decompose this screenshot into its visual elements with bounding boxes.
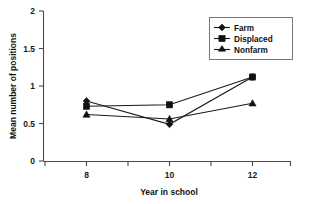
x-axis-title: Year in school xyxy=(140,187,198,197)
y-tick-label-1.5: 1.5 xyxy=(23,44,35,54)
data-point-displaced-8 xyxy=(83,103,89,109)
chart-container: 2 1.5 1 0.5 0 Mean number of positions 8… xyxy=(0,0,312,204)
legend-label-nonfarm: Nonfarm xyxy=(234,46,268,55)
line-chart: 2 1.5 1 0.5 0 Mean number of positions 8… xyxy=(0,0,312,204)
data-point-nonfarm-12 xyxy=(249,100,256,106)
x-tick-label-8: 8 xyxy=(84,170,89,180)
data-point-nonfarm-8 xyxy=(83,111,90,117)
data-point-displaced-10 xyxy=(166,102,172,108)
y-axis-title: Mean number of positions xyxy=(8,33,18,139)
y-tick-label-0: 0 xyxy=(30,156,35,166)
legend-marker-displaced-square xyxy=(219,35,225,41)
data-point-displaced-12 xyxy=(249,74,255,80)
y-tick-label-0.5: 0.5 xyxy=(23,119,35,129)
x-tick-label-10: 10 xyxy=(165,170,175,180)
legend-label-displaced: Displaced xyxy=(234,35,273,44)
x-tick-label-12: 12 xyxy=(248,170,258,180)
y-tick-label-1: 1 xyxy=(30,81,35,91)
legend-label-farm: Farm xyxy=(234,24,254,33)
y-tick-label-2: 2 xyxy=(30,6,35,16)
